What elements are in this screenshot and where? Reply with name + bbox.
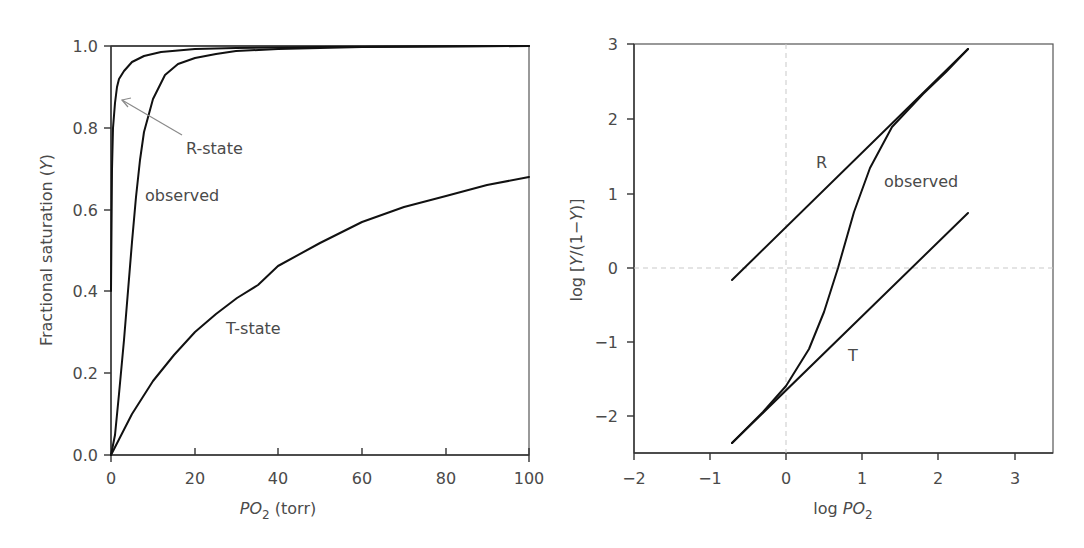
x-tick-label: 1 — [857, 469, 867, 488]
right-y-tick-labels: −2 −1 0 1 2 3 — [594, 35, 618, 426]
right-x-tick-labels: −2 −1 0 1 2 3 — [622, 469, 1020, 488]
left-y-tick-labels: 0.0 0.2 0.4 0.6 0.8 1.0 — [73, 37, 98, 465]
y-tick-label: 2 — [608, 110, 618, 129]
y-tick-label: 1 — [608, 185, 618, 204]
x-tick-label: 60 — [352, 469, 372, 488]
left-y-axis-label: Fractional saturation (Y) — [37, 154, 56, 346]
observed-curve — [111, 46, 529, 455]
y-tick-label: 1.0 — [73, 37, 98, 56]
x-tick-label: −2 — [622, 469, 646, 488]
y-tick-label: 3 — [608, 35, 618, 54]
right-chart: −2 −1 0 1 2 3 −2 −1 0 1 2 3 log PO2 log … — [567, 35, 1053, 522]
y-tick-label: 0.0 — [73, 446, 98, 465]
left-chart: 0.0 0.2 0.4 0.6 0.8 1.0 0 20 40 60 80 10… — [37, 37, 544, 522]
right-y-axis-label: log [Y/(1−Y)] — [567, 199, 586, 302]
r-state-label: R-state — [186, 139, 243, 158]
y-tick-label: 0 — [608, 259, 618, 278]
observed-label: observed — [145, 186, 219, 205]
left-x-tick-labels: 0 20 40 60 80 100 — [106, 469, 544, 488]
t-label: T — [847, 346, 858, 365]
right-y-ticks — [627, 44, 634, 416]
left-y-ticks — [104, 46, 111, 455]
r-state-curve — [111, 46, 529, 291]
y-tick-label: 0.6 — [73, 201, 98, 220]
y-tick-label: −1 — [594, 333, 618, 352]
x-tick-label: 40 — [268, 469, 288, 488]
y-tick-label: 0.2 — [73, 364, 98, 383]
x-tick-label: 2 — [933, 469, 943, 488]
t-state-curve — [111, 177, 529, 455]
observed-label: observed — [884, 172, 958, 191]
x-tick-label: 0 — [781, 469, 791, 488]
x-tick-label: 20 — [185, 469, 205, 488]
x-tick-label: 100 — [514, 469, 545, 488]
x-tick-label: −1 — [698, 469, 722, 488]
left-x-axis-label: PO2 (torr) — [240, 499, 316, 522]
x-tick-label: 3 — [1010, 469, 1020, 488]
x-tick-label: 0 — [106, 469, 116, 488]
right-x-axis-label: log PO2 — [813, 499, 872, 522]
r-label: R — [816, 153, 827, 172]
y-tick-label: −2 — [594, 407, 618, 426]
t-state-label: T-state — [225, 319, 281, 338]
y-tick-label: 0.8 — [73, 119, 98, 138]
left-plot-frame — [111, 46, 529, 455]
right-x-ticks — [634, 453, 1015, 460]
figure: 0.0 0.2 0.4 0.6 0.8 1.0 0 20 40 60 80 10… — [0, 0, 1084, 548]
x-tick-label: 80 — [436, 469, 456, 488]
y-tick-label: 0.4 — [73, 282, 98, 301]
